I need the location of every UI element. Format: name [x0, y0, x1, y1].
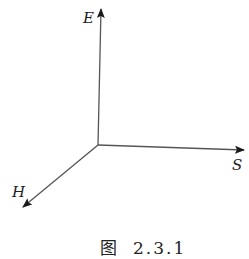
h-axis-vector	[23, 145, 98, 207]
caption-prefix: 图	[100, 238, 119, 258]
s-axis-vector	[98, 145, 244, 150]
figure-caption: 图2.3.1	[100, 234, 186, 259]
e-axis-vector	[98, 9, 101, 145]
e-axis-label: E	[83, 11, 94, 26]
caption-number: 2.3.1	[133, 238, 186, 258]
s-axis-label: S	[232, 158, 242, 173]
h-axis-label: H	[12, 185, 25, 200]
